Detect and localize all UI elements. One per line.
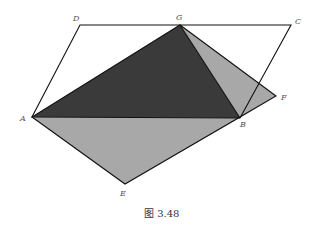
label-g: G xyxy=(176,13,183,22)
label-b: B xyxy=(239,120,246,129)
triangle-agb xyxy=(32,25,240,118)
label-a: A xyxy=(19,114,26,123)
figure-caption: 图 3.48 xyxy=(144,208,179,219)
label-e: E xyxy=(119,189,126,198)
label-d: D xyxy=(72,14,80,23)
triangle-abe xyxy=(32,117,240,184)
geometry-figure: A B C D E F G 图 3.48 xyxy=(0,0,315,229)
label-c: C xyxy=(295,17,301,26)
label-f: F xyxy=(280,93,287,102)
